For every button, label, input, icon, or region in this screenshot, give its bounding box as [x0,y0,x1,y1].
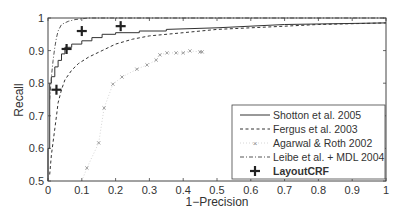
y-tick-label: 0.5 [29,175,44,187]
series-leibe-et-al-mdl-2004 [50,18,386,100]
y-tick-label: 0.8 [29,77,44,89]
x-tick-label: 0 [45,184,51,196]
x-tick-label: 0.7 [277,184,292,196]
x-tick-label: 0.9 [345,184,360,196]
series-agarwal-roth-2002 [82,49,204,181]
legend-item-fergus: Fergus et al. 2003 [273,123,358,135]
y-tick-label: 0.6 [29,142,44,154]
x-tick-label: 1 [383,184,389,196]
series-layoutcrf [51,21,125,95]
x-marker-icon: × [253,139,258,148]
y-tick-label: 0.7 [29,110,44,122]
legend-item-layoutcrf: LayoutCRF [273,165,330,177]
y-axis-label: Recall [12,83,26,116]
precision-recall-chart: 00.10.20.30.40.50.60.70.80.91 0.50.60.70… [0,0,396,221]
legend: Shotton et al. 2005 Fergus et al. 2003 ×… [232,105,385,179]
x-tick-label: 0.3 [142,184,157,196]
x-tick-label: 0.2 [108,184,123,196]
y-tick-label: 1 [38,12,44,24]
legend-item-agarwal: Agarwal & Roth 2002 [273,137,372,149]
legend-item-leibe: Leibe et al. + MDL 2004 [273,151,385,163]
x-tick-label: 0.8 [311,184,326,196]
x-tick-label: 0.1 [74,184,89,196]
x-axis-label: 1−Precision [185,195,248,209]
y-tick-label: 0.9 [29,45,44,57]
legend-item-shotton: Shotton et al. 2005 [273,109,361,121]
